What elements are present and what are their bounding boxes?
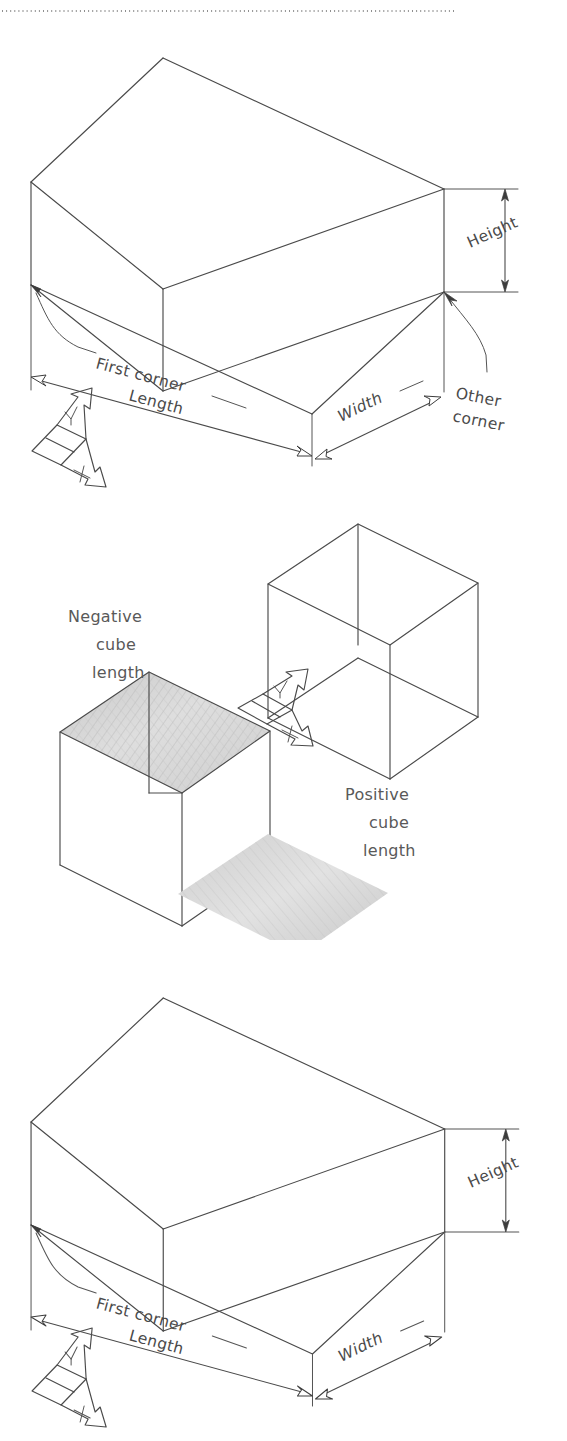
height-label: Height [464, 213, 520, 251]
negative-cube-label: Negative cube length [68, 607, 145, 682]
positive-label-line1: Positive [345, 785, 409, 804]
xy-axis-indicator-bottom [32, 1328, 106, 1427]
box-wireframe-top [31, 58, 444, 414]
width-label-bottom: Width [335, 1329, 386, 1366]
figure-box-dimensions-bottom: Height Length Width [0, 940, 567, 1441]
negative-label-line2: cube [96, 635, 136, 654]
width-dimension-top: Width [315, 292, 444, 459]
positive-label-line2: cube [369, 813, 409, 832]
first-corner-leader-bottom: First corner [31, 1225, 188, 1336]
height-label-bottom: Height [465, 1153, 521, 1191]
negative-label-line3: length [92, 663, 145, 682]
first-corner-leader-top: First corner [31, 285, 188, 396]
figure-cube-length-sign: Negative cube length Positive cube lengt… [0, 480, 567, 940]
positive-cube-label: Positive cube length [345, 785, 416, 860]
width-label: Width [335, 389, 385, 426]
other-corner-leader-top: Other corner [444, 292, 506, 435]
illustration-page: Height Length Width First corner [0, 0, 567, 1441]
other-corner-label-line2: corner [451, 407, 506, 435]
figure-box-dimensions-top: Height Length Width First corner [0, 0, 567, 490]
negative-label-line1: Negative [68, 607, 142, 626]
other-corner-label-line1: Other [454, 384, 503, 410]
width-dimension-bottom: Width [315, 1232, 444, 1399]
box-wireframe-bottom [31, 998, 445, 1354]
xy-axis-indicator-top [32, 388, 106, 487]
positive-label-line3: length [363, 841, 416, 860]
height-dimension-top: Height [444, 189, 521, 292]
height-dimension-bottom: Height [445, 1129, 522, 1232]
